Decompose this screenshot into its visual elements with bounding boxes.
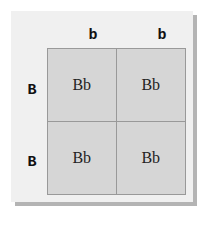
genotype-cell: Bb <box>48 49 117 122</box>
punnett-grid: Bb Bb Bb Bb <box>47 48 186 195</box>
row-allele-1: B <box>17 82 47 99</box>
column-allele-1: b <box>68 27 118 44</box>
genotype-cell: Bb <box>117 122 186 195</box>
genotype-cell: Bb <box>48 122 117 195</box>
genotype-cell: Bb <box>117 49 186 122</box>
row-allele-2: B <box>17 154 47 171</box>
column-allele-2: b <box>137 27 187 44</box>
